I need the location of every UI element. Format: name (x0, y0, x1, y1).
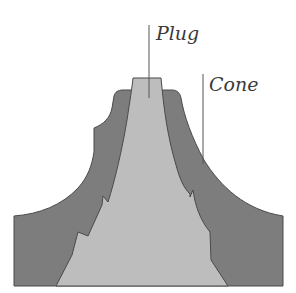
plug-label: Plug (156, 24, 199, 43)
volcano-plug-diagram: Plug Cone (0, 0, 296, 293)
cone-label: Cone (209, 75, 258, 94)
diagram-canvas (0, 0, 296, 293)
